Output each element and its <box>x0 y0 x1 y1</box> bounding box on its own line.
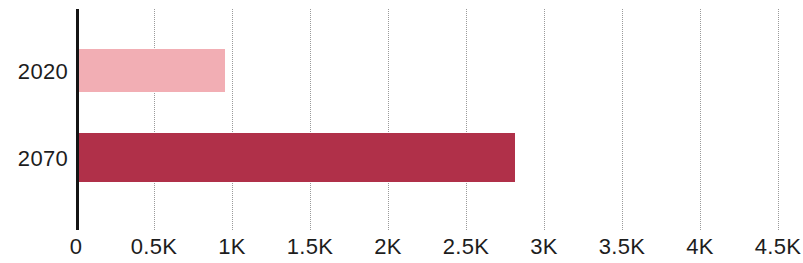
x-tick-label-1K: 1K <box>218 234 246 260</box>
plot-area: 2020 2070 0 0.5K 1K 1.5K 2K 2.5K 3K 3.5K… <box>0 0 803 263</box>
y-axis-label-2020: 2020 <box>0 59 68 85</box>
x-tick-label-2.5K: 2.5K <box>443 234 489 260</box>
gridline-2K <box>388 9 389 230</box>
x-tick-label-2K: 2K <box>374 234 402 260</box>
x-tick-label-0: 0 <box>70 234 83 260</box>
gridline-3.5K <box>622 9 623 230</box>
x-tick-label-3K: 3K <box>530 234 558 260</box>
bar-2020[interactable] <box>79 49 225 92</box>
gridline-0.5K <box>154 9 155 230</box>
y-axis-line <box>76 9 79 230</box>
x-tick-label-3.5K: 3.5K <box>599 234 645 260</box>
gridline-3K <box>544 9 545 230</box>
x-tick-label-4.5K: 4.5K <box>755 234 801 260</box>
gridline-2.5K <box>466 9 467 230</box>
gridline-4K <box>700 9 701 230</box>
bar-chart: 2020 2070 0 0.5K 1K 1.5K 2K 2.5K 3K 3.5K… <box>0 0 803 263</box>
bar-2070[interactable] <box>79 133 515 182</box>
x-tick-label-0.5K: 0.5K <box>131 234 177 260</box>
x-tick-label-1.5K: 1.5K <box>287 234 333 260</box>
gridline-1K <box>232 9 233 230</box>
y-axis-label-2070: 2070 <box>0 146 68 172</box>
gridline-1.5K <box>310 9 311 230</box>
x-tick-label-4K: 4K <box>686 234 714 260</box>
gridline-4.5K <box>778 9 779 230</box>
